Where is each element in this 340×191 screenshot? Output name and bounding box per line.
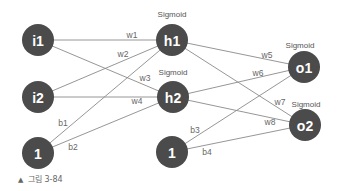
node-o2: o2: [289, 109, 321, 141]
edge-label-w8: w8: [264, 117, 276, 127]
edge-bias1-h1: [38, 40, 172, 153]
activation-label-o2: Sigmoid: [292, 100, 321, 109]
node-i2: i2: [22, 81, 54, 113]
node-label: 1: [168, 145, 176, 161]
node-label: i2: [32, 90, 44, 106]
edge-label-w4: w4: [131, 96, 143, 106]
node-bias1: 1: [22, 137, 54, 169]
node-label: o1: [296, 60, 313, 76]
activation-label-h2: Sigmoid: [159, 68, 188, 77]
neural-network-diagram: w1w2w3w4b1b2w5w6w7w8b3b4 i1i21h1h21o1o2 …: [0, 0, 340, 191]
node-o1: o1: [288, 51, 320, 83]
edge-label-w5: w5: [261, 50, 273, 60]
edge-label-b2: b2: [68, 142, 78, 152]
figure-caption: ▲ 그림 3-84: [18, 173, 63, 184]
edge-label-w7: w7: [274, 97, 286, 107]
edge-label-b4: b4: [202, 147, 212, 157]
node-h1: h1: [156, 24, 188, 56]
node-h2: h2: [157, 81, 189, 113]
edge-label-w2: w2: [117, 49, 129, 59]
edge-label-w1: w1: [126, 30, 138, 40]
node-label: 1: [34, 146, 42, 162]
edge-h1-o2: [172, 40, 305, 125]
caption-text: 그림 3-84: [28, 175, 63, 184]
triangle-marker-icon: ▲: [18, 176, 23, 184]
node-label: h2: [165, 90, 182, 106]
node-label: i1: [32, 33, 44, 49]
edge-label-b3: b3: [190, 125, 200, 135]
edge-bias2-o1: [172, 67, 304, 152]
node-i1: i1: [22, 24, 54, 56]
activation-label-o1: Sigmoid: [286, 41, 315, 50]
edge-label-w6: w6: [252, 68, 264, 78]
edge-label-w3: w3: [139, 73, 151, 83]
node-bias2: 1: [156, 136, 188, 168]
activation-label-h1: Sigmoid: [158, 10, 187, 19]
node-label: h1: [164, 33, 181, 49]
node-label: o2: [297, 118, 314, 134]
edge-h1-o1: [172, 40, 304, 67]
edge-label-b1: b1: [58, 118, 68, 128]
